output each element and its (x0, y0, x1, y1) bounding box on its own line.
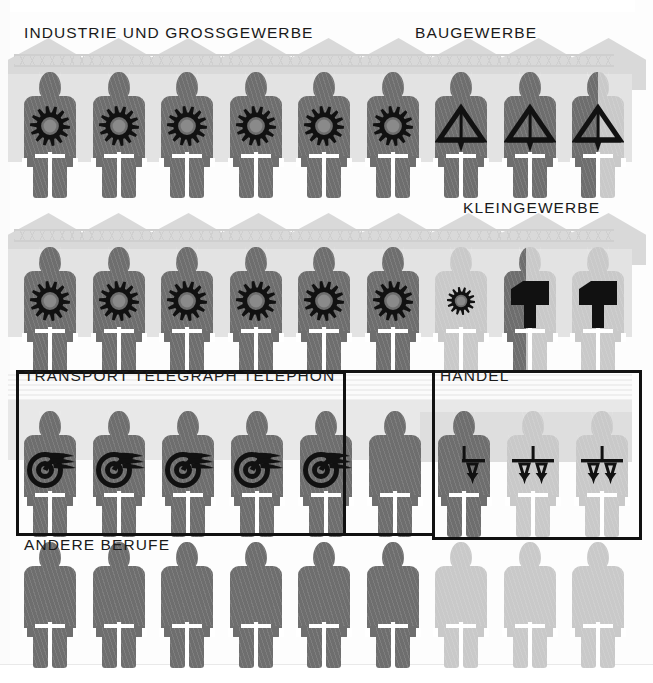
gear-icon (93, 100, 145, 154)
figure-leg-right (532, 154, 547, 198)
figure-torso (504, 566, 556, 628)
figure-leg-right (600, 329, 615, 373)
pictogram-figure (365, 247, 421, 373)
figure-arm-notch-right (416, 333, 421, 342)
figure-leg-left (33, 624, 48, 668)
figure-leg-right (395, 154, 410, 198)
figure-leg-gap (322, 152, 326, 198)
pictogram-figure (433, 72, 489, 198)
figure-leg-gap (254, 622, 258, 668)
figure-arm-notch-left (159, 158, 164, 167)
figure-waist-notch (515, 329, 526, 333)
figure-arm-notch-right (73, 158, 78, 167)
figure-leg-right (52, 624, 67, 668)
chart-row-kleingewerbe: KLEINGEWERBE (0, 205, 653, 373)
figure-leg-right (532, 624, 547, 668)
figure-leg-left (444, 154, 459, 198)
pictogram-figure (296, 247, 352, 373)
figure-leg-right (600, 624, 615, 668)
gear-icon (298, 275, 350, 329)
level-triangle-icon (435, 100, 487, 154)
figure-leg-right (326, 154, 341, 198)
pictogram-figure (570, 247, 626, 373)
figure-leg-gap (528, 152, 532, 198)
figure-torso (24, 566, 76, 628)
figure-arm-notch-right (553, 158, 558, 167)
figure-leg-right (258, 624, 273, 668)
row-label-industrie: INDUSTRIE UND GROSSGEWERBE (24, 24, 314, 42)
pictogram-figure (296, 542, 352, 668)
pictogram-figure (22, 411, 78, 537)
figure-arm-notch-left (159, 333, 164, 342)
figure-arm-notch-left (502, 158, 507, 167)
figure-leg-gap (322, 622, 326, 668)
pictogram-figure (91, 542, 147, 668)
pictogram-figure (433, 247, 489, 373)
figure-arm-notch-right (349, 497, 354, 506)
figure-leg-left (307, 154, 322, 198)
figure-leg-left (513, 154, 528, 198)
figure-arm-notch-right (487, 497, 492, 506)
figure-arm-notch-left (365, 158, 370, 167)
pictogram-figure (91, 72, 147, 198)
hammer-icon (572, 275, 624, 329)
figure-arm-notch-right (280, 497, 285, 506)
paper-edge-top (0, 0, 653, 12)
figure-leg-gap (596, 622, 600, 668)
pictogram-figure (502, 247, 558, 373)
pictogram-figure (502, 542, 558, 668)
figure-arm-notch-right (210, 333, 215, 342)
figure-leg-right (121, 154, 136, 198)
figure-arm-notch-right (347, 628, 352, 637)
figure-arm-notch-left (367, 497, 372, 506)
figure-arm-notch-right (210, 158, 215, 167)
figure-arm-notch-left (228, 158, 233, 167)
figure-leg-gap (324, 491, 328, 537)
pictogram-figure (228, 72, 284, 198)
figure-torso (230, 566, 282, 628)
figure-arm-notch-left (436, 497, 441, 506)
figure-arm-notch-right (625, 497, 630, 506)
gear-icon (93, 275, 145, 329)
figure-leg-left (102, 624, 117, 668)
figure-arm-notch-left (505, 497, 510, 506)
balance-scale-icon (576, 439, 628, 493)
figure-arm-notch-left (91, 628, 96, 637)
chart-row-andere-berufe: ANDERE BERUFE (0, 540, 653, 668)
pictogram-figure-body (365, 542, 421, 668)
figure-leg-right (52, 154, 67, 198)
figure-leg-left (581, 624, 596, 668)
figure-torso (93, 566, 145, 628)
figure-leg-right (466, 493, 481, 537)
figure-leg-gap (528, 622, 532, 668)
gear-icon (230, 100, 282, 154)
figure-arm-notch-right (279, 333, 284, 342)
pictogram-figure-body (91, 542, 147, 668)
figure-leg-left (239, 624, 254, 668)
figure-leg-gap (48, 622, 52, 668)
figure-leg-right (189, 624, 204, 668)
figure-arm-notch-left (433, 628, 438, 637)
figure-leg-gap (255, 491, 259, 537)
figure-leg-gap (254, 152, 258, 198)
figure-arm-notch-right (210, 628, 215, 637)
figure-arm-notch-right (621, 333, 626, 342)
pictogram-figure (91, 411, 147, 537)
figure-leg-left (378, 493, 393, 537)
figure-leg-right (328, 493, 343, 537)
figure-leg-left (585, 493, 600, 537)
figure-leg-gap (48, 152, 52, 198)
balance-scale-icon (507, 439, 559, 493)
figure-leg-gap (391, 622, 395, 668)
figure-leg-gap (393, 491, 397, 537)
figure-arm-notch-left (433, 158, 438, 167)
gear-icon (367, 275, 419, 329)
figure-leg-left (513, 329, 526, 373)
figure-arm-notch-left (433, 333, 438, 342)
figure-arm-notch-left (22, 158, 27, 167)
figure-arm-notch-right (347, 333, 352, 342)
figure-leg-right (535, 493, 550, 537)
figure-leg-right (395, 624, 410, 668)
winged-wheel-icon (162, 439, 214, 493)
pictogram-figure-body (228, 542, 284, 668)
